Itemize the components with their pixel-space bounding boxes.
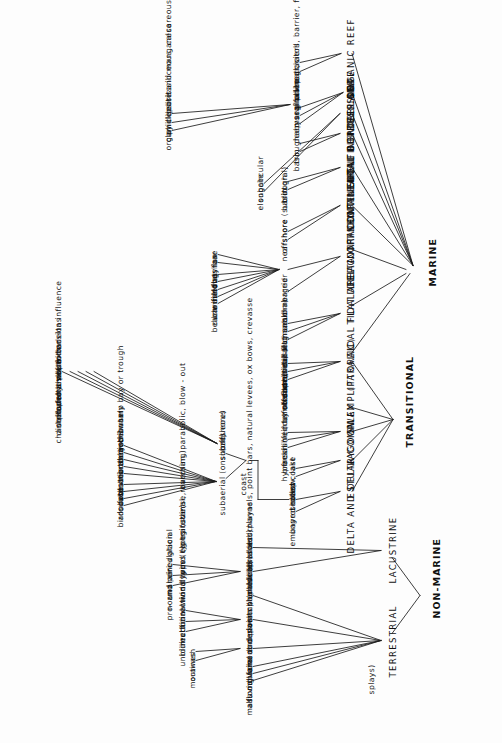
leaf-depression-trough: trough xyxy=(281,174,289,202)
leaf-estuary-deep: deep xyxy=(289,481,297,502)
node-transitional[interactable]: TRANSITIONAL xyxy=(405,355,414,447)
node-terrestrial[interactable]: TERRESTRIAL xyxy=(389,605,398,677)
leaf-dunes: dunes xyxy=(246,629,254,654)
node-organic-reef[interactable]: ORGANIC REEF xyxy=(347,18,356,98)
node-lacustrine[interactable]: LACUSTRINE xyxy=(389,516,398,583)
leaf-shelf-offshore: offshore xyxy=(281,218,289,253)
leaf-slope-subcircular: subcircular xyxy=(257,155,265,202)
leaf-multidirectional-wind-types: multidirectional wind types (star) xyxy=(179,504,187,646)
node-coast[interactable]: coast xyxy=(240,472,248,495)
leaf-deep-lakes: deep lakes xyxy=(246,537,254,582)
leaf-phillipsite-and-manganese: phillipsite and manganese xyxy=(165,23,173,134)
leaf-floodplains-continuation: splays) xyxy=(368,664,376,694)
leaf-bay-bar: bay bar xyxy=(211,251,219,283)
leaf-open-shelf-with-delta-influence: open shelf with delta influence xyxy=(55,280,63,411)
node-subaqueous-offshore-line2[interactable]: (offshore) xyxy=(219,410,227,451)
diagram-page: NON-MARINE MARINE TRANSITIONAL TERRESTRI… xyxy=(0,0,502,743)
leaf-glacial: glacial xyxy=(246,655,254,683)
diagram-canvas: NON-MARINE MARINE TRANSITIONAL TERRESTRI… xyxy=(0,0,502,743)
node-non-marine[interactable]: NON-MARINE xyxy=(432,537,441,618)
leaf-reef-patch: patch xyxy=(293,59,301,83)
leaf-outwash: outwash xyxy=(189,648,196,681)
leaf-undrained: undrained xyxy=(166,556,174,599)
node-marine[interactable]: MARINE xyxy=(428,238,437,286)
node-barrier[interactable]: barrier xyxy=(281,273,289,302)
leaf-beach-question: beach ? xyxy=(117,429,125,462)
